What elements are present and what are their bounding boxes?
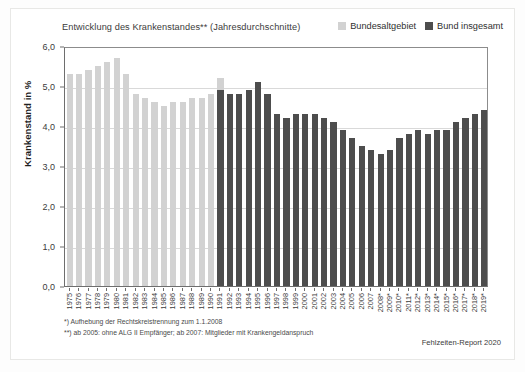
bar <box>453 122 459 286</box>
bar <box>462 118 468 286</box>
x-tick-mark <box>154 288 155 291</box>
x-tick-mark <box>182 288 183 291</box>
x-tick-label: 2016* <box>451 293 460 312</box>
x-tick-label: 1976 <box>74 293 83 309</box>
x-tick-label: 1977 <box>84 293 93 309</box>
bar <box>293 114 299 286</box>
footnote-line: *) Aufhebung der Rechtskreistrennung zum… <box>64 317 313 328</box>
bar <box>283 118 289 286</box>
bar <box>425 134 431 286</box>
y-tick-label: 3,0 <box>42 162 55 172</box>
bar <box>406 134 412 286</box>
x-tick-label: 1991 <box>215 293 224 309</box>
x-tick-mark <box>276 288 277 291</box>
bar <box>472 114 478 286</box>
x-tick-label: 1982 <box>131 293 140 309</box>
bar <box>76 74 82 286</box>
bar <box>85 70 91 286</box>
bar <box>264 94 270 286</box>
x-tick-label: 2014* <box>432 293 441 312</box>
bar <box>312 114 318 286</box>
x-tick-mark <box>380 288 381 291</box>
x-tick-mark <box>333 288 334 291</box>
bar <box>396 138 402 286</box>
x-tick-label: 1995 <box>253 293 262 309</box>
bar <box>330 122 336 286</box>
bar <box>142 98 148 286</box>
x-tick-mark <box>455 288 456 291</box>
x-tick-mark <box>342 288 343 291</box>
bar <box>170 102 176 286</box>
x-tick-mark <box>417 288 418 291</box>
x-tick-mark <box>446 288 447 291</box>
x-tick-label: 1992 <box>225 293 234 309</box>
x-tick-label: 1985 <box>159 293 168 309</box>
x-tick-mark <box>285 288 286 291</box>
x-tick-mark <box>219 288 220 291</box>
x-tick-mark <box>464 288 465 291</box>
x-tick-mark <box>398 288 399 291</box>
bar <box>340 130 346 286</box>
bar <box>67 74 73 286</box>
x-tick-mark <box>106 288 107 291</box>
x-tick-mark <box>267 288 268 291</box>
x-tick-mark <box>135 288 136 291</box>
bar <box>378 154 384 286</box>
x-tick-mark <box>172 288 173 291</box>
x-tick-mark <box>351 288 352 291</box>
bar <box>368 150 374 286</box>
x-tick-mark <box>389 288 390 291</box>
bar <box>104 62 110 286</box>
bar <box>189 98 195 286</box>
bars-layer <box>65 48 487 286</box>
bar <box>255 82 261 286</box>
x-tick-label: 1987 <box>178 293 187 309</box>
x-tick-mark <box>323 288 324 291</box>
bar <box>387 150 393 286</box>
x-tick-mark <box>201 288 202 291</box>
x-tick-label: 2007 <box>366 293 375 309</box>
x-tick-mark <box>97 288 98 291</box>
x-tick-label: 2005 <box>347 293 356 309</box>
x-tick-mark <box>163 288 164 291</box>
x-tick-label: 1998 <box>281 293 290 309</box>
x-tick-mark <box>116 288 117 291</box>
figure-container: Entwicklung des Krankenstandes** (Jahres… <box>0 0 525 372</box>
x-tick-label: 1975 <box>65 293 74 309</box>
x-tick-mark <box>295 288 296 291</box>
x-tick-mark <box>88 288 89 291</box>
x-tick-label: 1988 <box>187 293 196 309</box>
x-tick-mark <box>144 288 145 291</box>
bar <box>481 110 487 286</box>
x-tick-mark <box>304 288 305 291</box>
bar <box>434 130 440 286</box>
y-tick-label: 1,0 <box>42 242 55 252</box>
legend-swatch-icon <box>338 22 346 30</box>
footnote-line: **) ab 2005: ohne ALG II Empfänger; ab 2… <box>64 328 313 339</box>
bar <box>227 94 233 286</box>
bar <box>246 90 252 286</box>
x-tick-mark <box>78 288 79 291</box>
x-tick-label: 1986 <box>168 293 177 309</box>
bar <box>274 114 280 286</box>
x-tick-label: 2003 <box>329 293 338 309</box>
x-tick-mark <box>361 288 362 291</box>
x-tick-label: 2018* <box>470 293 479 312</box>
bar <box>349 138 355 286</box>
x-tick-mark <box>314 288 315 291</box>
x-tick-label: 2013* <box>423 293 432 312</box>
bar <box>95 66 101 286</box>
y-tick-label: 0,0 <box>42 282 55 292</box>
x-tick-mark <box>483 288 484 291</box>
x-tick-label: 1990 <box>206 293 215 309</box>
x-tick-mark <box>210 288 211 291</box>
x-tick-label: 2019* <box>479 293 488 312</box>
y-tick-label: 5,0 <box>42 82 55 92</box>
bar <box>180 102 186 286</box>
x-tick-mark <box>427 288 428 291</box>
x-tick-mark <box>238 288 239 291</box>
x-tick-label: 2012* <box>413 293 422 312</box>
plot-area <box>64 47 488 287</box>
legend-label: Bund insgesamt <box>437 21 503 31</box>
legend-label: Bundesaltgebiet <box>350 21 416 31</box>
